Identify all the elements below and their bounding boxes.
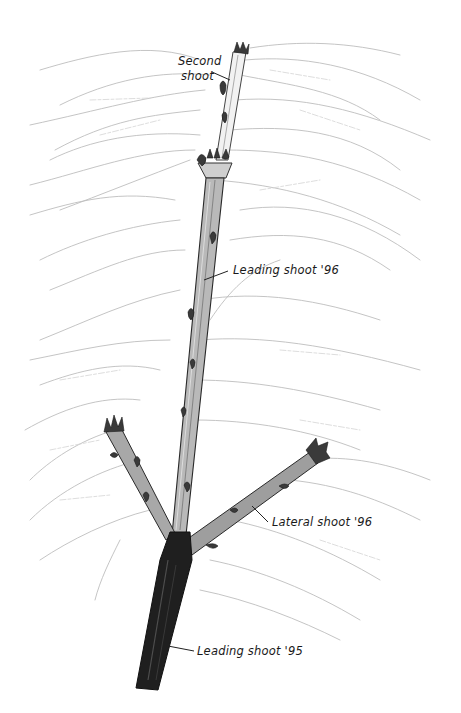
- lateral-shoot-96: [186, 438, 330, 555]
- label-lateral-shoot-96: Lateral shoot '96: [272, 515, 372, 529]
- label-leading-shoot-95: Leading shoot '95: [197, 644, 303, 658]
- label-second-shoot-line1: Second: [178, 54, 222, 69]
- label-second-shoot: Second shoot: [178, 54, 222, 84]
- label-leading-shoot-96: Leading shoot '96: [233, 263, 339, 277]
- leading-shoot-96: [172, 178, 224, 535]
- leader-lateral-shoot-96: [252, 506, 268, 522]
- node-collar: [197, 148, 232, 178]
- leader-leading-shoot-95: [168, 646, 194, 651]
- shoot-illustration: [0, 0, 461, 713]
- leading-shoot-95: [136, 532, 192, 690]
- label-second-shoot-line2: shoot: [178, 69, 222, 84]
